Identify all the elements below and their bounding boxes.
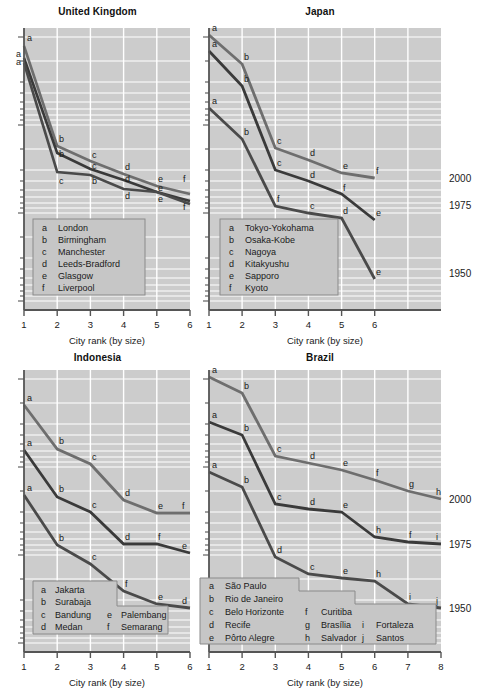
svg-text:b: b — [244, 475, 249, 485]
legend-label: Sapporo — [245, 271, 279, 281]
svg-text:b: b — [244, 423, 249, 433]
svg-text:c: c — [59, 176, 64, 186]
legend-label: Salvador — [321, 633, 357, 643]
svg-text:e: e — [182, 541, 187, 551]
svg-text:e: e — [158, 501, 163, 511]
x-axis-ticks — [209, 652, 441, 658]
svg-text:2: 2 — [55, 319, 60, 330]
legend-label: Curitiba — [321, 607, 352, 617]
legend-key: b — [209, 594, 214, 604]
x-axis-title: City rank (by size) — [287, 677, 363, 688]
svg-text:i: i — [436, 532, 438, 542]
svg-text:c: c — [92, 150, 97, 160]
svg-text:6: 6 — [187, 661, 192, 672]
svg-text:d: d — [182, 596, 187, 606]
svg-text:d: d — [125, 162, 130, 172]
svg-text:c: c — [310, 562, 315, 572]
legend-united-kingdom: a London b Birmingham c Manchester d Lee… — [33, 219, 145, 295]
svg-text:e: e — [376, 208, 381, 218]
legend-label: Liverpool — [58, 283, 95, 293]
legend-key: b — [41, 597, 46, 607]
svg-text:4: 4 — [306, 319, 311, 330]
chart-united-kingdom: a a a b b c c c b d d d e e e f f — [0, 6, 195, 346]
x-axis-title: City rank (by size) — [69, 677, 145, 688]
panel-indonesia: Indonesia — [0, 352, 195, 692]
legend-key: g — [305, 620, 310, 630]
svg-text:b: b — [244, 127, 249, 137]
svg-text:b: b — [59, 484, 64, 494]
legend-key: c — [229, 247, 234, 257]
svg-text:a: a — [212, 39, 217, 49]
svg-text:d: d — [277, 545, 282, 555]
legend-label: Manchester — [58, 247, 105, 257]
svg-text:2: 2 — [239, 661, 244, 672]
svg-text:a: a — [212, 23, 217, 33]
svg-text:c: c — [92, 452, 97, 462]
panel-title-indonesia: Indonesia — [0, 352, 195, 363]
panel-united-kingdom: United Kingdom — [0, 6, 195, 346]
svg-text:a: a — [27, 438, 32, 448]
legend-label: Brasília — [321, 620, 351, 630]
legend-key: b — [42, 235, 47, 245]
svg-text:e: e — [158, 194, 163, 204]
x-axis-title: City rank (by size) — [287, 335, 363, 346]
svg-text:8: 8 — [438, 661, 443, 672]
svg-text:e: e — [343, 500, 348, 510]
svg-text:b: b — [244, 74, 249, 84]
legend-label: Bandung — [55, 610, 91, 620]
legend-key: c — [209, 607, 214, 617]
svg-text:e: e — [158, 592, 163, 602]
legend-key: d — [229, 259, 234, 269]
legend-label: Glasgow — [58, 271, 94, 281]
legend-key: i — [362, 620, 364, 630]
legend-key: d — [42, 259, 47, 269]
legend-label: Recife — [225, 620, 251, 630]
svg-text:b: b — [244, 381, 249, 391]
legend-key: e — [107, 610, 112, 620]
svg-text:c: c — [277, 444, 282, 454]
year-label-1975: 1975 — [449, 200, 472, 211]
svg-text:4: 4 — [121, 319, 126, 330]
panel-title-united-kingdom: United Kingdom — [0, 6, 195, 17]
legend-key: h — [305, 633, 310, 643]
svg-text:c: c — [277, 136, 282, 146]
svg-text:e: e — [343, 161, 348, 171]
svg-text:c: c — [92, 161, 97, 171]
chart-indonesia: a a a b b b c c c d d f e f e f e d — [0, 352, 195, 692]
svg-text:1: 1 — [21, 319, 26, 330]
legend-label: Jakarta — [55, 585, 85, 595]
year-label-1950: 1950 — [449, 603, 472, 614]
year-label-2000: 2000 — [449, 494, 472, 505]
svg-text:b: b — [244, 52, 249, 62]
legend-label: Pôrto Alegre — [225, 633, 275, 643]
svg-text:5: 5 — [154, 319, 159, 330]
legend-key: d — [209, 620, 214, 630]
year-labels: 2000 1975 1950 — [449, 173, 472, 279]
svg-text:e: e — [158, 183, 163, 193]
panel-japan: Japan — [195, 6, 500, 346]
svg-text:2: 2 — [239, 319, 244, 330]
svg-text:3: 3 — [88, 319, 93, 330]
svg-text:g: g — [409, 479, 414, 489]
legend-japan: a Tokyo-Yokohama b Osaka-Kobe c Nagoya d… — [220, 219, 338, 295]
svg-text:d: d — [125, 174, 130, 184]
svg-text:a: a — [27, 33, 32, 43]
year-label-2000: 2000 — [449, 173, 472, 184]
svg-text:b: b — [92, 176, 97, 186]
legend-label: São Paulo — [225, 581, 267, 591]
legend-label: Osaka-Kobe — [245, 235, 295, 245]
svg-text:a: a — [27, 483, 32, 493]
svg-text:a: a — [27, 393, 32, 403]
legend-key: c — [42, 247, 47, 257]
legend-label: London — [58, 223, 88, 233]
svg-text:2: 2 — [55, 661, 60, 672]
legend-label: Semarang — [121, 622, 163, 632]
legend-key: a — [42, 223, 47, 233]
legend-key: c — [41, 610, 46, 620]
legend-label: Santos — [376, 633, 405, 643]
svg-text:c: c — [277, 492, 282, 502]
legend-label: Rio de Janeiro — [225, 594, 283, 604]
legend-key: e — [209, 633, 214, 643]
svg-text:1: 1 — [206, 319, 211, 330]
legend-label: Palembang — [121, 610, 167, 620]
